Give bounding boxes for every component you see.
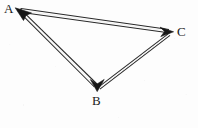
edge-BC-stroke-upper <box>98 33 168 87</box>
edge-CA <box>21 8 170 33</box>
edge-CA-stroke-lower <box>22 13 170 33</box>
vertex-label-c: C <box>177 25 186 38</box>
triangle-diagram-svg <box>0 0 198 128</box>
edge-BC-stroke-lower <box>100 35 170 89</box>
edge-CA-stroke-upper <box>21 8 169 29</box>
edge-BC <box>98 33 170 89</box>
vertex-label-b: B <box>92 94 101 107</box>
triangle-diagram-canvas: A B C <box>0 0 198 128</box>
edge-BC-core-highlight <box>99 34 169 88</box>
edge-AB-stroke-left <box>18 10 95 87</box>
edge-CA-core-highlight <box>22 11 170 32</box>
edge-AB <box>18 9 99 87</box>
vertex-label-a: A <box>4 2 13 15</box>
